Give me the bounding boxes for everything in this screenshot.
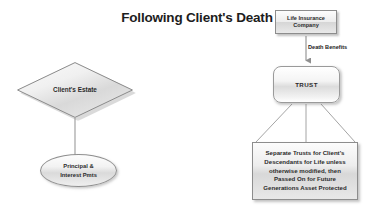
lic-line-1: Life Insurance [287,15,325,22]
node-principal-interest-pmts[interactable]: Principal & Interest Pmts [40,154,117,187]
separate-trusts-line-2: Descendants for Life unless [263,158,346,167]
connector-trust-left [256,104,292,142]
node-clients-estate[interactable]: Client's Estate [17,62,133,118]
node-separate-trusts-label: Separate Trusts for Client's Descendants… [263,149,346,192]
node-life-insurance-company-label: Life Insurance Company [287,15,325,28]
separate-trusts-line-5: Generations Asset Protected [263,184,346,193]
node-principal-interest-pmts-label: Principal & Interest Pmts [60,162,97,179]
lic-line-2: Company [287,22,325,29]
separate-trusts-line-3: otherwise modified, then [263,167,346,176]
pmts-line-1: Principal & [60,162,97,170]
node-clients-estate-label: Client's Estate [17,86,133,94]
diagram-canvas: Following Client's Death Life Insurance … [0,0,377,206]
pmts-line-2: Interest Pmts [60,171,97,179]
separate-trusts-line-1: Separate Trusts for Client's [263,149,346,158]
node-trust[interactable]: TRUST [273,66,340,103]
node-separate-trusts[interactable]: Separate Trusts for Client's Descendants… [252,142,358,200]
node-trust-label: TRUST [295,81,318,88]
edge-label-death-benefits: Death Benefits [308,44,347,50]
separate-trusts-line-4: Passed On for Future [263,175,346,184]
node-life-insurance-company[interactable]: Life Insurance Company [275,10,337,34]
connector-trust-right [321,104,355,142]
